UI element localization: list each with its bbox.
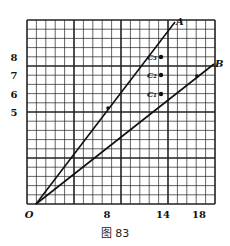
origin-label: O <box>25 209 34 220</box>
point-label-c3: C₃ <box>147 52 157 62</box>
figure-caption: 图 83 <box>0 224 230 240</box>
labels: ABC₃C₂C₁814188765O <box>11 16 224 220</box>
x-tick-label: 18 <box>192 209 206 220</box>
point-label-c2: C₂ <box>147 70 157 80</box>
line-label-b: B <box>214 58 223 69</box>
marker-on-line-b <box>195 74 199 78</box>
x-tick-label: 8 <box>104 209 111 220</box>
graph-figure: ABC₃C₂C₁814188765O <box>0 0 230 246</box>
point-c1 <box>159 92 163 96</box>
points <box>106 55 199 110</box>
point-label-c1: C₁ <box>147 89 157 99</box>
point-c2 <box>159 73 163 77</box>
y-tick-label: 7 <box>11 70 18 81</box>
point-c3 <box>159 55 163 59</box>
y-tick-label: 6 <box>11 89 18 100</box>
y-tick-label: 8 <box>11 52 18 63</box>
x-tick-label: 14 <box>156 209 170 220</box>
line-label-a: A <box>175 16 184 27</box>
y-tick-label: 5 <box>11 107 18 118</box>
marker-on-line-a <box>106 106 110 110</box>
line-b <box>36 64 214 204</box>
grid <box>27 20 215 204</box>
